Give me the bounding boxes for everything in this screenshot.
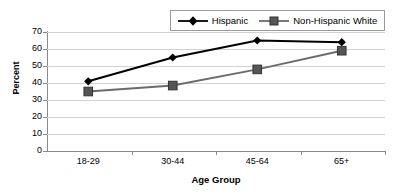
data-point-marker xyxy=(337,46,346,55)
data-point-marker xyxy=(168,81,177,90)
data-point-marker xyxy=(84,77,92,85)
square-marker-icon xyxy=(259,15,289,27)
data-point-marker xyxy=(169,53,177,61)
data-point-marker xyxy=(253,36,261,44)
legend-label-non-hispanic-white: Non-Hispanic White xyxy=(293,16,377,26)
chart-legend: Hispanic Non-Hispanic White xyxy=(170,10,385,31)
data-point-marker xyxy=(338,38,346,46)
legend-item-hispanic: Hispanic xyxy=(178,15,248,27)
data-point-marker xyxy=(84,87,93,96)
data-point-marker xyxy=(253,65,262,74)
line-chart: 010203040506070 18-2930-4445-6465+ Perce… xyxy=(0,0,394,194)
series-line-hispanic xyxy=(88,41,342,82)
legend-item-non-hispanic-white: Non-Hispanic White xyxy=(259,15,377,27)
diamond-marker-icon xyxy=(178,15,208,27)
legend-label-hispanic: Hispanic xyxy=(212,16,248,26)
